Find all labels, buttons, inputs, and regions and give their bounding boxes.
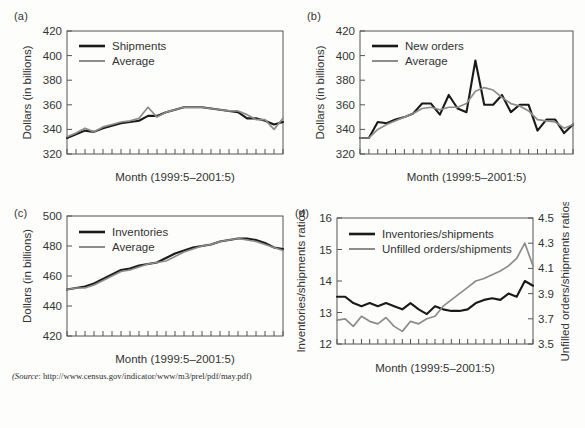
panel-d-label: (d) — [295, 207, 309, 219]
y-axis-title: Dollars (in billions) — [21, 229, 33, 323]
panel-b-label: (b) — [307, 10, 321, 22]
y-tick-label: 340 — [336, 123, 355, 135]
panel-d-chart: 12131415163.53.73.94.14.34.5Inventories/… — [293, 202, 585, 382]
legend-label-0: Inventories/shipments — [382, 228, 494, 240]
panel-a-label: (a) — [14, 10, 28, 22]
legend-label-0: New orders — [405, 40, 464, 52]
legend-label-0: Inventories — [112, 226, 169, 238]
series-line-1 — [67, 107, 283, 137]
y-tick-label: 400 — [336, 50, 355, 62]
x-axis-title: Month (1999:5–2001:5) — [407, 171, 527, 183]
legend-label-1: Average — [112, 241, 155, 253]
y-tick-label: 420 — [336, 25, 355, 37]
y-tick-label: 340 — [43, 123, 62, 135]
y-tick-label: 320 — [43, 148, 62, 160]
y-tick-label: 13 — [319, 307, 332, 319]
y-tick-label: 400 — [43, 50, 62, 62]
y-tick-label: 320 — [336, 148, 355, 160]
plot-frame — [67, 216, 283, 336]
x-axis-title: Month (1999:5–2001:5) — [115, 353, 235, 365]
plot-frame — [360, 31, 573, 154]
y-tick-label: 360 — [43, 99, 62, 111]
panel-a-chart: 320340360380400420ShipmentsAverageMonth … — [0, 0, 292, 200]
series-line-1 — [337, 243, 533, 331]
y-tick-label-right: 3.7 — [538, 313, 554, 325]
panel-c-label: (c) — [14, 207, 27, 219]
y-tick-label: 380 — [43, 74, 62, 86]
y-tick-label: 440 — [43, 300, 62, 312]
source-word: (Source — [12, 371, 38, 381]
panel-c: (c) 420440460480500InventoriesAverageMon… — [0, 202, 292, 392]
y-tick-label-right: 3.9 — [538, 288, 554, 300]
y-tick-label: 15 — [319, 244, 332, 256]
panel-a: (a) 320340360380400420ShipmentsAverageMo… — [0, 0, 292, 200]
panel-d: (d) 12131415163.53.73.94.14.34.5Inventor… — [293, 202, 585, 392]
legend-label-1: Unfilled orders/shipments — [382, 243, 512, 255]
plot-frame — [67, 31, 283, 154]
y-tick-label-right: 3.5 — [538, 338, 554, 350]
y-tick-label-right: 4.5 — [538, 212, 554, 224]
y-axis-title-right: Unfilled orders/shipments ratios — [559, 202, 571, 362]
series-line-0 — [67, 107, 283, 138]
y-tick-label: 460 — [43, 270, 62, 282]
x-axis-title: Month (1999:5–2001:5) — [375, 362, 495, 374]
y-tick-label: 500 — [43, 210, 62, 222]
figure-container: (a) 320340360380400420ShipmentsAverageMo… — [0, 0, 585, 428]
y-axis-title: Inventories/shipments ratios — [295, 209, 307, 352]
panel-c-chart: 420440460480500InventoriesAverageMonth (… — [0, 202, 292, 377]
x-axis-title: Month (1999:5–2001:5) — [115, 171, 235, 183]
y-tick-label-right: 4.3 — [538, 237, 554, 249]
series-line-0 — [360, 61, 573, 138]
y-tick-label: 12 — [319, 338, 332, 350]
y-axis-title: Dollars (in billions) — [21, 45, 33, 139]
legend-label-1: Average — [405, 55, 448, 67]
y-tick-label: 14 — [319, 275, 332, 287]
source-url: : http://www.census.gov/indicator/www/m3… — [38, 371, 251, 381]
y-tick-label: 480 — [43, 240, 62, 252]
legend-label-0: Shipments — [112, 40, 167, 52]
source-note: (Source: http://www.census.gov/indicator… — [12, 371, 252, 381]
y-tick-label: 360 — [336, 99, 355, 111]
y-axis-title: Dollars (in billions) — [314, 45, 326, 139]
panel-b: (b) 320340360380400420New ordersAverageM… — [293, 0, 585, 200]
series-line-0 — [337, 281, 533, 314]
legend-label-1: Average — [112, 55, 155, 67]
y-tick-label: 420 — [43, 330, 62, 342]
y-tick-label-right: 4.1 — [538, 262, 554, 274]
y-tick-label: 420 — [43, 25, 62, 37]
panel-b-chart: 320340360380400420New ordersAverageMonth… — [293, 0, 585, 200]
y-tick-label: 380 — [336, 74, 355, 86]
y-tick-label: 16 — [319, 212, 332, 224]
